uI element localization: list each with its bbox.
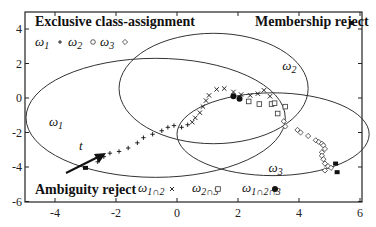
x-tick-label: -4: [50, 206, 60, 220]
y-tick-label: -4: [12, 160, 22, 174]
legend-label: ω1∩2: [138, 180, 164, 197]
membership-chart: -4-20246420-2-4-6 t Exclusive class-assi…: [0, 0, 376, 227]
class-ellipses: [26, 33, 369, 177]
series-ω2∩3: [246, 99, 287, 116]
x-tick-label: 6: [357, 206, 363, 220]
x-tick-label: 0: [174, 206, 180, 220]
y-tick-label: -6: [12, 195, 22, 209]
y-tick-label: -2: [12, 126, 22, 140]
x-tick-label: 4: [296, 206, 302, 220]
series-ω1: [96, 123, 190, 164]
x-tick-label: 2: [235, 206, 241, 220]
y-tick-label: 4: [16, 22, 22, 36]
legend-label: ω2: [68, 34, 82, 51]
series-ω3: [281, 119, 333, 173]
ellipse-label: ω1: [49, 114, 63, 131]
legend-bottom: ω1∩2ω2∩3ω1∩2∩3: [138, 180, 281, 197]
y-tick-label: 0: [16, 91, 22, 105]
legend-item: ω2: [68, 34, 95, 51]
legend-item: ω1∩2: [138, 180, 174, 197]
ellipse-labels: ω1ω2ω3: [49, 58, 297, 178]
legend-label: ω3: [100, 34, 114, 51]
legend-item: ω3: [100, 34, 128, 51]
legend-item: ω1: [35, 34, 62, 51]
y-tick-label: 2: [16, 57, 22, 71]
legend-item: ω2∩3: [192, 180, 220, 197]
legend-item: ω1∩2∩3: [242, 180, 281, 197]
data-points: [83, 86, 340, 174]
annotation-exclusive: Exclusive class-assignment: [35, 14, 195, 29]
annotation-ambiguity-reject: Ambiguity reject: [35, 182, 137, 197]
time-arrow-label: t: [79, 138, 83, 153]
legend-label: ω2∩3: [192, 180, 218, 197]
legend-top: ω1ω2ω3: [35, 34, 128, 51]
ellipse-ω1: [26, 58, 285, 177]
legend-label: ω1: [35, 34, 49, 51]
ellipse-ω2: [119, 33, 308, 143]
membership-reject-marker-icon: [349, 21, 353, 25]
ellipse-label: ω3: [269, 160, 283, 177]
x-tick-label: -2: [111, 206, 121, 220]
